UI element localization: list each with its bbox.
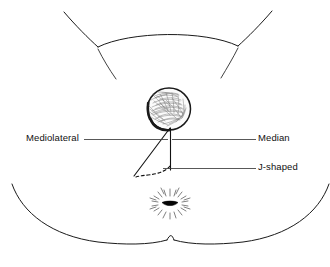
left-thigh-crease [98,49,116,79]
anus [150,188,190,219]
label-median: Median [258,132,290,143]
fetal-head-crowning [148,88,191,130]
right-buttock-curve [174,184,329,244]
j-shaped-incision-line [136,166,170,177]
incision-lines-group [134,128,171,177]
left-buttock-curve [12,184,167,244]
right-thigh-crease [221,48,238,78]
anal-orifice [162,201,178,206]
left-groin-upper-line [64,12,98,47]
label-j-shaped: J-shaped [258,161,298,172]
label-mediolateral: Mediolateral [26,132,79,143]
vulvar-arch-line [98,34,238,47]
thigh-and-perineal-outline [64,11,272,79]
natal-cleft-notch [167,236,174,241]
episiotomy-diagram: Mediolateral Median J-shaped [0,0,330,267]
right-groin-upper-line [238,11,272,46]
buttock-outline [12,184,329,244]
